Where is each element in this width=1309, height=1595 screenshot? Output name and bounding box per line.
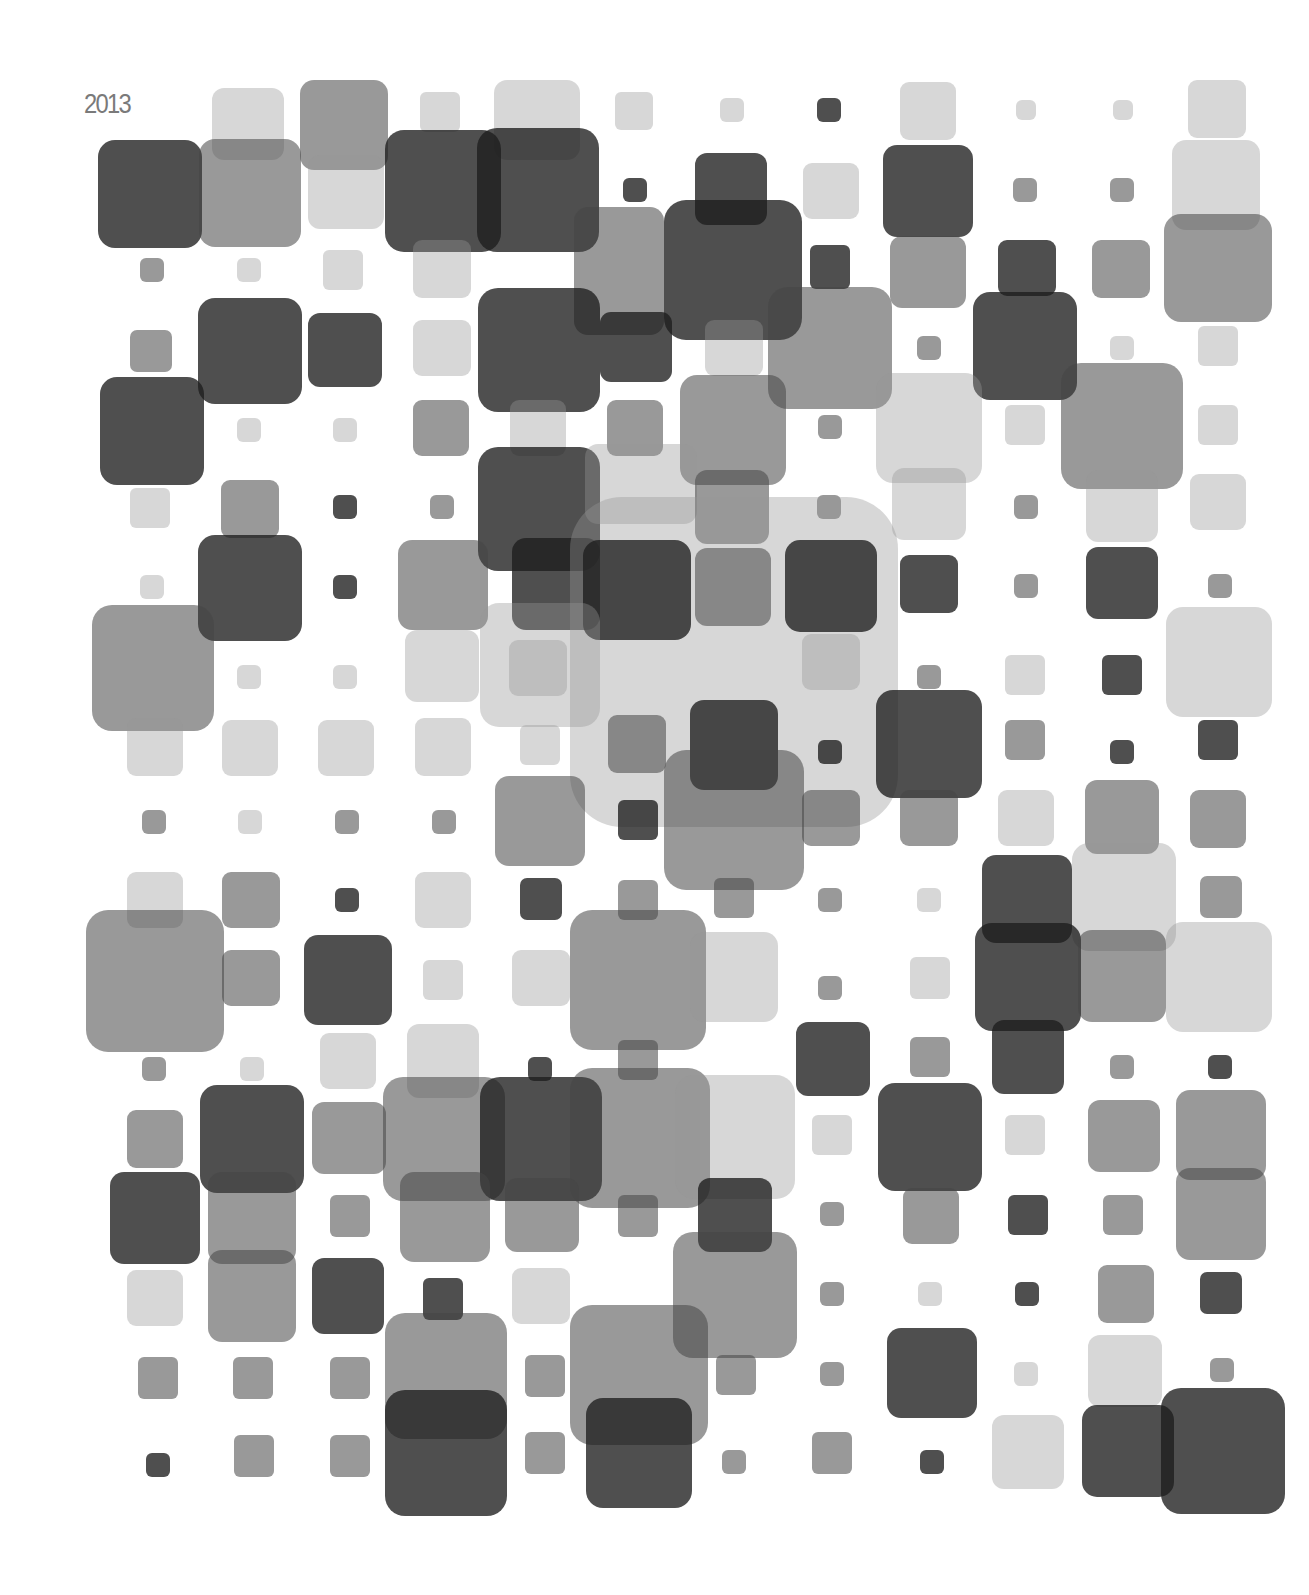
matrix-square <box>818 976 842 1000</box>
matrix-square <box>1188 80 1246 138</box>
matrix-square <box>812 1115 852 1155</box>
matrix-square <box>495 776 585 866</box>
matrix-square <box>1014 495 1038 519</box>
matrix-square <box>320 1033 376 1089</box>
matrix-square <box>233 1357 273 1399</box>
matrix-square <box>623 178 647 202</box>
matrix-square <box>86 910 224 1052</box>
poster-canvas: 2013 <box>0 0 1309 1595</box>
matrix-square <box>1208 1055 1232 1079</box>
matrix-square <box>1166 922 1272 1032</box>
matrix-square <box>323 250 363 290</box>
matrix-square <box>820 1202 844 1226</box>
matrix-square <box>415 872 471 928</box>
matrix-square <box>720 98 744 122</box>
matrix-square <box>818 740 842 764</box>
matrix-square <box>100 377 204 485</box>
matrix-square <box>900 555 958 613</box>
matrix-square <box>705 320 763 376</box>
matrix-square <box>405 630 479 702</box>
matrix-square <box>512 950 570 1006</box>
matrix-square <box>198 298 302 404</box>
matrix-square <box>140 258 164 282</box>
matrix-square <box>1016 100 1036 120</box>
matrix-square <box>1088 1335 1162 1407</box>
matrix-square <box>1110 178 1134 202</box>
matrix-square <box>308 313 382 387</box>
square-matrix-chart <box>0 0 1309 1595</box>
matrix-square <box>917 665 941 689</box>
matrix-square <box>1164 214 1272 322</box>
matrix-square <box>768 287 892 409</box>
matrix-square <box>618 1195 658 1237</box>
matrix-square <box>695 548 771 626</box>
matrix-square <box>432 810 456 834</box>
matrix-square <box>1113 100 1133 120</box>
matrix-square <box>430 495 454 519</box>
matrix-square <box>1208 574 1232 598</box>
matrix-square <box>890 236 966 308</box>
matrix-square <box>664 750 804 890</box>
matrix-square <box>335 810 359 834</box>
matrix-square <box>413 320 471 376</box>
matrix-square <box>505 1178 579 1252</box>
matrix-square <box>998 240 1056 296</box>
matrix-square <box>1110 1055 1134 1079</box>
matrix-square <box>817 98 841 122</box>
matrix-square <box>199 139 301 247</box>
matrix-square <box>802 634 860 690</box>
matrix-square <box>140 575 164 599</box>
matrix-square <box>876 690 982 798</box>
matrix-square <box>318 720 374 776</box>
matrix-square <box>812 1432 852 1474</box>
matrix-square <box>221 480 279 538</box>
matrix-square <box>398 540 488 630</box>
matrix-square <box>1092 240 1150 298</box>
matrix-square <box>138 1357 178 1399</box>
matrix-square <box>330 1195 370 1237</box>
matrix-square <box>237 665 261 689</box>
matrix-square <box>917 336 941 360</box>
matrix-square <box>1198 720 1238 760</box>
matrix-square <box>127 1110 183 1168</box>
matrix-square <box>1110 740 1134 764</box>
matrix-square <box>423 960 463 1000</box>
matrix-square <box>975 923 1081 1031</box>
matrix-square <box>615 92 653 130</box>
matrix-square <box>525 1355 565 1397</box>
matrix-square <box>1005 1115 1045 1155</box>
matrix-square <box>803 163 859 219</box>
matrix-square <box>222 872 280 928</box>
matrix-square <box>600 312 672 382</box>
matrix-square <box>992 1415 1064 1489</box>
matrix-square <box>130 488 170 528</box>
matrix-square <box>1176 1168 1266 1260</box>
matrix-square <box>1014 1362 1038 1386</box>
matrix-square <box>1190 474 1246 530</box>
matrix-square <box>714 878 754 918</box>
matrix-square <box>98 140 202 248</box>
matrix-square <box>878 1083 982 1191</box>
matrix-square <box>146 1453 170 1477</box>
matrix-square <box>883 145 973 237</box>
matrix-square <box>918 1282 942 1306</box>
matrix-square <box>892 468 966 540</box>
matrix-square <box>1086 547 1158 619</box>
matrix-square <box>333 665 357 689</box>
matrix-square <box>308 155 384 229</box>
matrix-square <box>330 1357 370 1399</box>
matrix-square <box>92 605 214 731</box>
matrix-square <box>796 1022 870 1096</box>
matrix-square <box>1198 405 1238 445</box>
matrix-square <box>413 240 471 298</box>
matrix-square <box>586 1398 692 1508</box>
matrix-square <box>992 1020 1064 1094</box>
matrix-square <box>1015 1282 1039 1306</box>
matrix-square <box>208 1250 296 1342</box>
matrix-square <box>998 790 1054 846</box>
matrix-square <box>818 415 842 439</box>
matrix-square <box>1190 790 1246 848</box>
matrix-square <box>900 790 958 846</box>
matrix-square <box>1210 1358 1234 1382</box>
matrix-square <box>820 1282 844 1306</box>
